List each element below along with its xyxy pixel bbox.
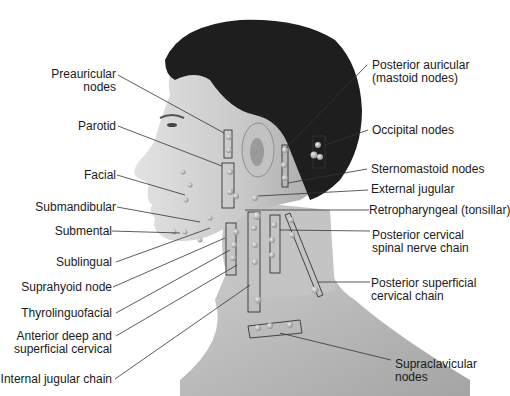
label-line: Retropharyngeal (tonsillar) (369, 204, 510, 217)
label-line: spinal nerve chain (372, 242, 469, 255)
label-line: Submental (0, 225, 112, 238)
label-posterior-auricular: Posterior auricular (mastoid nodes) (372, 59, 469, 85)
label-line: nodes (395, 371, 477, 384)
label-sternomastoid-nodes: Sternomastoid nodes (371, 163, 484, 176)
label-submental: Submental (0, 225, 112, 238)
label-posterior-superficial-cervical-chain: Posterior superficial cervical chain (371, 277, 476, 303)
label-line: nodes (10, 81, 116, 94)
label-line: Internal jugular chain (0, 373, 112, 386)
label-line: (mastoid nodes) (372, 72, 469, 85)
label-line: superficial cervical (0, 343, 112, 356)
label-retropharyngeal: Retropharyngeal (tonsillar) (369, 204, 510, 217)
label-thyrolinguofacial: Thyrolinguofacial (0, 307, 112, 320)
label-posterior-cervical-spinal-nerve-chain: Posterior cervical spinal nerve chain (372, 229, 469, 255)
label-sublingual: Sublingual (0, 256, 112, 269)
label-facial: Facial (10, 169, 116, 182)
label-internal-jugular-chain: Internal jugular chain (0, 373, 112, 386)
label-anterior-deep-superficial-cervical: Anterior deep and superficial cervical (0, 330, 112, 356)
label-preauricular-nodes: Preauricular nodes (10, 68, 116, 94)
label-line: Facial (10, 169, 116, 182)
label-submandibular: Submandibular (0, 201, 116, 214)
label-line: Suprahyoid node (0, 281, 112, 294)
label-line: Sternomastoid nodes (371, 163, 484, 176)
label-supraclavicular-nodes: Supraclavicular nodes (395, 358, 477, 384)
label-external-jugular: External jugular (371, 183, 454, 196)
label-line: Parotid (10, 120, 116, 133)
label-line: Sublingual (0, 256, 112, 269)
head-silhouette (134, 20, 362, 241)
label-line: Thyrolinguofacial (0, 307, 112, 320)
label-line: Submandibular (0, 201, 116, 214)
label-suprahyoid-node: Suprahyoid node (0, 281, 112, 294)
label-parotid: Parotid (10, 120, 116, 133)
label-line: cervical chain (371, 290, 476, 303)
label-line: Occipital nodes (372, 124, 454, 137)
label-occipital-nodes: Occipital nodes (372, 124, 454, 137)
label-line: External jugular (371, 183, 454, 196)
